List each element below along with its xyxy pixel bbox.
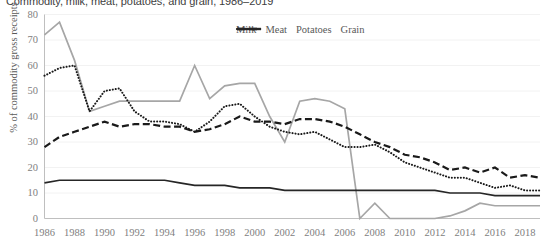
legend-label: Grain (341, 24, 365, 35)
series-line-meat (45, 117, 541, 178)
series-line-potatoes (45, 66, 541, 191)
legend-item-grain[interactable]: Grain (341, 24, 365, 35)
line-chart: Commodity, milk, meat, potatoes, and gra… (0, 0, 545, 247)
legend-label: Potatoes (296, 24, 332, 35)
legend-item-potatoes[interactable]: Potatoes (296, 24, 332, 35)
legend-item-meat[interactable]: Meat (265, 24, 287, 35)
series-line-milk (45, 22, 541, 218)
legend-label: Meat (265, 24, 287, 35)
chart-legend: MilkMeatPotatoesGrain (236, 24, 374, 35)
grain-swatch (236, 24, 262, 34)
plot-area (0, 0, 545, 247)
